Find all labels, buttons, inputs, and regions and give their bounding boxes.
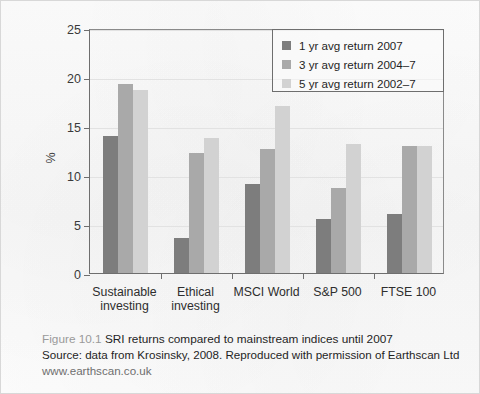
figure-number: Figure 10.1	[42, 332, 102, 346]
x-axis-tick	[232, 273, 233, 279]
legend-label-series-2: 3 yr avg return 2004–7	[299, 58, 416, 71]
chart-legend: 1 yr avg return 2007 3 yr avg return 200…	[272, 29, 444, 92]
bar	[260, 149, 275, 273]
bar	[402, 146, 417, 273]
bar	[331, 188, 346, 273]
figure-title: SRI returns compared to mainstream indic…	[105, 332, 393, 346]
bar-group	[103, 30, 148, 273]
legend-item: 5 yr avg return 2002–7	[282, 74, 435, 93]
bar	[103, 136, 118, 273]
x-axis-tick	[303, 273, 304, 279]
x-axis-label: Sustainable investing	[89, 285, 160, 313]
x-axis-tick	[374, 273, 375, 279]
figure-caption: Figure 10.1 SRI returns compared to main…	[42, 331, 462, 379]
legend-item: 1 yr avg return 2007	[282, 36, 435, 55]
bar	[417, 146, 432, 273]
caption-source-line: Source: data from Krosinsky, 2008. Repro…	[42, 347, 462, 363]
x-axis-label: MSCI World	[231, 285, 302, 299]
legend-swatch-series-2	[282, 60, 291, 69]
bar	[387, 214, 402, 273]
y-axis-tick-label: 20	[67, 72, 81, 86]
bar	[118, 84, 133, 273]
bar	[346, 144, 361, 273]
bar	[189, 153, 204, 273]
bar	[275, 106, 290, 273]
y-axis-tick-label: 5	[74, 219, 81, 233]
legend-label-series-3: 5 yr avg return 2002–7	[299, 77, 416, 90]
figure-container: % 0510152025 Sustainable investingEthica…	[0, 0, 480, 394]
y-axis-tick-label: 0	[74, 268, 81, 282]
legend-swatch-series-3	[282, 79, 291, 88]
y-axis-tick-label: 15	[67, 121, 81, 135]
legend-swatch-series-1	[282, 41, 291, 50]
legend-label-series-1: 1 yr avg return 2007	[299, 39, 403, 52]
bar	[316, 219, 331, 273]
x-axis-label: Ethical investing	[160, 285, 231, 313]
y-axis-tick	[84, 275, 90, 276]
bar	[174, 238, 189, 273]
x-axis-tick	[161, 273, 162, 279]
bar	[204, 138, 219, 273]
x-axis-label: S&P 500	[302, 285, 373, 299]
bar	[133, 90, 148, 273]
bar-chart: % 0510152025 Sustainable investingEthica…	[1, 1, 480, 321]
bar	[245, 184, 260, 273]
caption-url-line: www.earthscan.co.uk	[42, 363, 462, 379]
bar-group	[174, 30, 219, 273]
y-axis-title: %	[44, 152, 58, 163]
x-axis-label: FTSE 100	[373, 285, 444, 299]
y-axis-tick-label: 10	[67, 170, 81, 184]
caption-title-line: Figure 10.1 SRI returns compared to main…	[42, 331, 462, 347]
y-axis-tick-label: 25	[67, 23, 81, 37]
legend-item: 3 yr avg return 2004–7	[282, 55, 435, 74]
